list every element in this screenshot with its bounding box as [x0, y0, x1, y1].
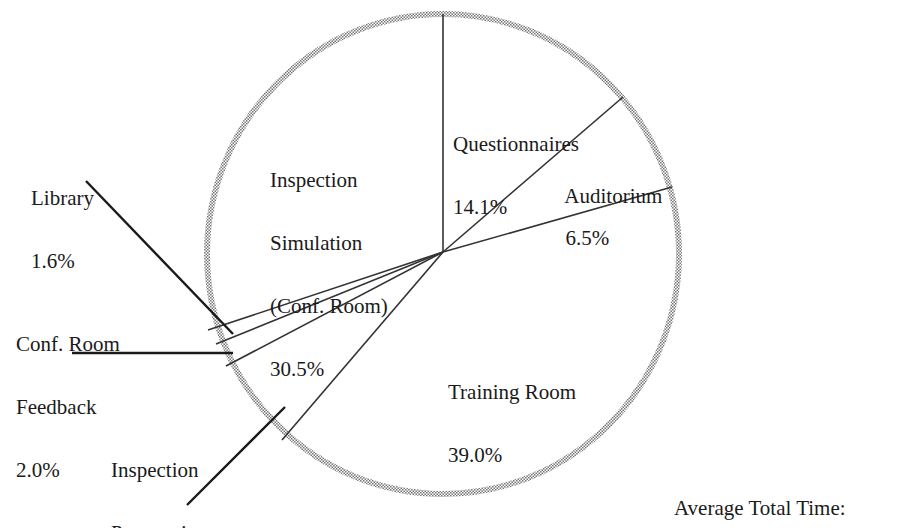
label-simulation-line2: Simulation: [270, 233, 388, 254]
label-training-value: 39.0%: [448, 445, 576, 466]
label-library-name: Library: [31, 188, 94, 209]
label-inspection-preparation: Inspection Preparation (Office) 6.3%: [111, 418, 208, 528]
label-simulation-value: 30.5%: [270, 359, 388, 380]
label-conf-room-feedback: Conf. Room Feedback 2.0%: [16, 292, 120, 502]
label-auditorium-name: Auditorium: [564, 184, 662, 208]
label-training-room: Training Room 39.0%: [448, 340, 576, 487]
label-auditorium: Auditorium 6.5%: [555, 165, 662, 249]
label-library-value: 1.6%: [31, 251, 94, 272]
label-auditorium-value: 6.5%: [566, 226, 610, 250]
label-simulation-line1: Inspection: [270, 170, 388, 191]
label-prep-line1: Inspection: [111, 460, 208, 481]
label-simulation-line3: (Conf. Room): [270, 296, 388, 317]
average-total-time: Average Total Time: 2 hours 33 minutes: [674, 443, 846, 528]
average-total-time-label: Average Total Time:: [674, 495, 846, 521]
label-prep-line2: Preparation: [111, 523, 208, 528]
label-questionnaires-name: Questionnaires: [453, 134, 579, 155]
label-feedback-line1: Conf. Room: [16, 334, 120, 355]
label-feedback-line2: Feedback: [16, 397, 120, 418]
label-feedback-value: 2.0%: [16, 460, 120, 481]
label-library: Library 1.6%: [31, 146, 94, 293]
label-training-name: Training Room: [448, 382, 576, 403]
label-inspection-simulation: Inspection Simulation (Conf. Room) 30.5%: [270, 128, 388, 401]
